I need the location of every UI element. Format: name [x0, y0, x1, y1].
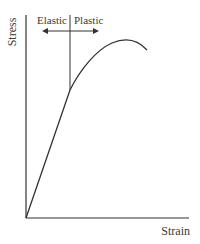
stress-strain-diagram: Elastic Plastic Stress Strain	[0, 0, 200, 244]
stress-strain-curve	[26, 40, 147, 218]
x-axis-label: Strain	[161, 224, 190, 238]
elastic-label: Elastic	[37, 14, 67, 26]
plastic-label: Plastic	[74, 14, 103, 26]
y-axis-label: Stress	[5, 17, 19, 46]
